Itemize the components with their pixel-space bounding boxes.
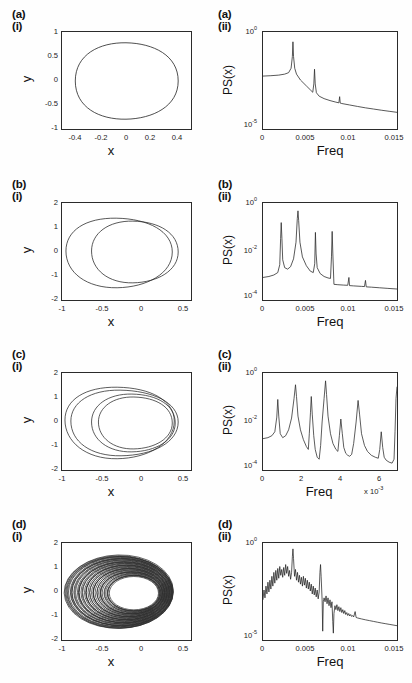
ytick-di-4: 2 bbox=[40, 538, 58, 547]
yaxis-title-cii: PS(x) bbox=[221, 405, 235, 435]
xaxis-title-ai: x bbox=[96, 143, 126, 158]
plot-area-ci bbox=[61, 372, 192, 471]
xtick-ci-2: 0 bbox=[133, 474, 149, 483]
xtick-dii-2: 0.01 bbox=[336, 644, 360, 653]
xtick-ci-3: 0.5 bbox=[172, 474, 194, 483]
xtick-di-0: -1 bbox=[52, 644, 72, 653]
plot-area-cii bbox=[262, 372, 398, 471]
ytick-di-2: 0 bbox=[40, 586, 58, 595]
xaxis-multiplier-cii: x 10-3 bbox=[364, 487, 383, 496]
ytick-ci-4: 2 bbox=[40, 368, 58, 377]
xtick-cii-1: 2 bbox=[291, 474, 311, 483]
xtick-cii-3: 6 bbox=[369, 474, 389, 483]
panel-label-bi: (b)(i) bbox=[12, 178, 26, 202]
ytick-ci-2: 0 bbox=[40, 416, 58, 425]
xaxis-title-di: x bbox=[96, 654, 126, 669]
xtick-di-2: 0 bbox=[133, 644, 149, 653]
xtick-ai-2: 0 bbox=[118, 133, 134, 142]
xaxis-title-bi: x bbox=[96, 314, 126, 329]
ytick-di-3: 1 bbox=[40, 562, 58, 571]
ytick-dii-0: 10-5 bbox=[231, 631, 257, 640]
xtick-dii-3: 0.015 bbox=[378, 644, 410, 653]
xaxis-title-aii: Freq bbox=[293, 143, 367, 158]
xtick-bii-0: 0 bbox=[252, 304, 272, 313]
ytick-cii-2: 100 bbox=[231, 368, 257, 377]
plot-area-dii bbox=[262, 542, 398, 641]
ytick-aii-0: 10-5 bbox=[231, 120, 257, 129]
xaxis-title-ci: x bbox=[96, 484, 126, 499]
ytick-ci-3: 1 bbox=[40, 392, 58, 401]
ytick-aii-1: 100 bbox=[231, 27, 257, 36]
ytick-bii-0: 10-4 bbox=[231, 291, 257, 300]
yaxis-title-bii: PS(x) bbox=[221, 235, 235, 265]
ytick-ai-0: -1 bbox=[36, 123, 58, 132]
ytick-cii-0: 10-4 bbox=[231, 461, 257, 470]
yaxis-title-ai: y bbox=[19, 76, 34, 83]
panel-label-aii: (a)(ii) bbox=[218, 8, 231, 32]
xtick-ai-1: -0.2 bbox=[88, 133, 114, 142]
plot-area-bii bbox=[262, 202, 398, 301]
ytick-ai-2: 0 bbox=[40, 75, 58, 84]
panel-label-dii: (d)(ii) bbox=[218, 518, 232, 542]
ytick-dii-1: 100 bbox=[231, 538, 257, 547]
xtick-bii-3: 0.015 bbox=[378, 304, 410, 313]
xtick-bi-0: -1 bbox=[52, 304, 72, 313]
ytick-bi-4: 2 bbox=[40, 198, 58, 207]
plot-area-aii bbox=[262, 31, 398, 130]
ytick-di-0: -2 bbox=[36, 634, 58, 643]
yaxis-title-bi: y bbox=[19, 247, 34, 254]
ytick-ai-1: -0.5 bbox=[32, 99, 58, 108]
xtick-aii-1: 0.005 bbox=[290, 133, 320, 142]
figure-canvas: (a)(i) 1 0.5 0 -0.5 -1 y -0.4 -0.2 0 0.2… bbox=[0, 0, 412, 683]
xtick-ci-0: -1 bbox=[52, 474, 72, 483]
xtick-bi-1: -0.5 bbox=[89, 304, 115, 313]
plot-area-ai bbox=[61, 31, 192, 130]
ytick-bi-2: 0 bbox=[40, 246, 58, 255]
xtick-ai-3: 0.2 bbox=[139, 133, 161, 142]
xtick-dii-0: 0 bbox=[252, 644, 272, 653]
xtick-di-1: -0.5 bbox=[89, 644, 115, 653]
xaxis-title-bii: Freq bbox=[293, 314, 367, 329]
ytick-ai-3: 0.5 bbox=[34, 51, 58, 60]
xtick-di-3: 0.5 bbox=[172, 644, 194, 653]
xtick-cii-0: 0 bbox=[252, 474, 272, 483]
xtick-ai-0: -0.4 bbox=[62, 133, 88, 142]
panel-label-di: (d)(i) bbox=[12, 518, 26, 542]
ytick-bi-3: 1 bbox=[40, 222, 58, 231]
ytick-ci-1: -1 bbox=[36, 440, 58, 449]
yaxis-title-aii: PS(x) bbox=[221, 65, 235, 95]
ytick-bi-1: -1 bbox=[36, 270, 58, 279]
xtick-ai-4: 0.4 bbox=[166, 133, 188, 142]
yaxis-title-di: y bbox=[19, 587, 34, 594]
ytick-bi-0: -2 bbox=[36, 294, 58, 303]
plot-area-di bbox=[61, 542, 192, 641]
xaxis-title-cii: Freq bbox=[282, 484, 356, 499]
panel-label-bii: (b)(ii) bbox=[218, 178, 232, 202]
ytick-ci-0: -2 bbox=[36, 464, 58, 473]
xtick-cii-2: 4 bbox=[330, 474, 350, 483]
ytick-bii-2: 100 bbox=[231, 198, 257, 207]
panel-label-ai: (a)(i) bbox=[12, 8, 25, 32]
xtick-aii-2: 0.01 bbox=[336, 133, 360, 142]
ytick-di-1: -1 bbox=[36, 610, 58, 619]
xtick-aii-3: 0.015 bbox=[378, 133, 410, 142]
panel-label-ci: (c)(i) bbox=[12, 348, 25, 372]
xtick-bii-1: 0.005 bbox=[290, 304, 320, 313]
plot-area-bi bbox=[61, 202, 192, 301]
yaxis-title-dii: PS(x) bbox=[221, 575, 235, 605]
xtick-dii-1: 0.005 bbox=[290, 644, 320, 653]
xtick-aii-0: 0 bbox=[252, 133, 272, 142]
xtick-ci-1: -0.5 bbox=[89, 474, 115, 483]
xtick-bii-2: 0.01 bbox=[336, 304, 360, 313]
xtick-bi-3: 0.5 bbox=[172, 304, 194, 313]
yaxis-title-ci: y bbox=[19, 417, 34, 424]
xtick-bi-2: 0 bbox=[133, 304, 149, 313]
xaxis-title-dii: Freq bbox=[293, 654, 367, 669]
ytick-ai-4: 1 bbox=[40, 27, 58, 36]
panel-label-cii: (c)(ii) bbox=[218, 348, 231, 372]
